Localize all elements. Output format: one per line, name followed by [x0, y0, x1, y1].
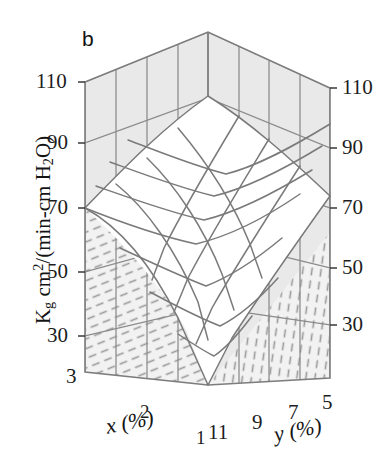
z-tick-right-50: 50	[342, 257, 363, 278]
z-tick-right-70: 70	[342, 197, 363, 218]
z-tick-left-70: 70	[47, 197, 68, 218]
x-tick-1: 1	[196, 428, 206, 447]
x-tick-3: 3	[66, 366, 77, 387]
z-tick-right-90: 90	[342, 137, 363, 158]
z-tick-left-110: 110	[36, 71, 67, 92]
z-tick-right-30: 30	[342, 314, 363, 335]
panel-label: b	[82, 28, 94, 49]
y-tick-11: 11	[208, 422, 228, 443]
y-tick-9: 9	[252, 412, 263, 433]
z-axis-title-symbol: K	[31, 309, 55, 324]
z-tick-left-90: 90	[47, 132, 68, 153]
z-axis-title-subscript: g	[40, 302, 56, 309]
z-axis-title-superscript: 2	[30, 264, 46, 271]
z-axis-title-water-subscript: 2	[40, 158, 56, 165]
z-tick-left-50: 50	[47, 261, 68, 282]
z-tick-right-110: 110	[342, 77, 373, 98]
z-tick-left-30: 30	[47, 325, 68, 346]
y-tick-5: 5	[322, 392, 333, 413]
